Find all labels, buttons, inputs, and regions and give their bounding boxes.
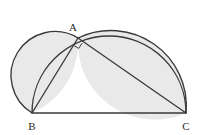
vertex-label-B: B (28, 120, 35, 132)
vertex-label-A: A (69, 21, 77, 33)
geometry-figure-container: A B C (0, 0, 208, 135)
lunes-of-hippocrates-diagram: A B C (0, 0, 208, 135)
vertex-label-C: C (182, 120, 189, 132)
lune-left-shaded-region (11, 32, 78, 113)
